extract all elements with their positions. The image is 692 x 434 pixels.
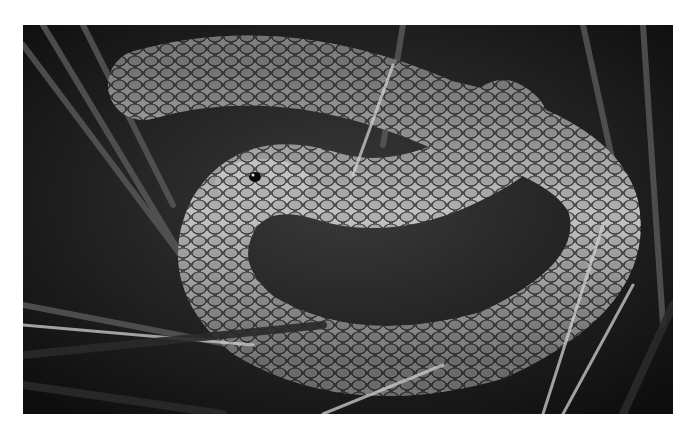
snake-photograph xyxy=(23,25,673,414)
photo-rendering xyxy=(23,25,673,414)
snake-eye xyxy=(249,172,261,182)
